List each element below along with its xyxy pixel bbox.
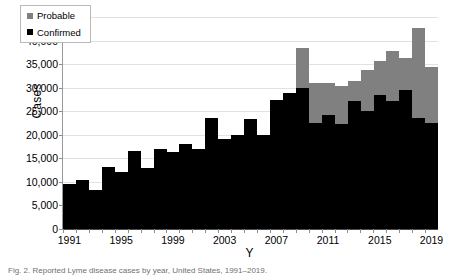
x-tick-mark — [89, 229, 90, 233]
bar-column — [63, 17, 76, 229]
legend-label-probable: Probable — [37, 11, 75, 21]
legend-item-probable: Probable — [27, 11, 81, 21]
y-tick-label: 20,000 — [26, 129, 58, 141]
bar-segment-confirmed — [425, 123, 438, 229]
x-tick-mark — [347, 229, 348, 233]
bar-column — [128, 17, 141, 229]
x-tick-mark — [399, 229, 400, 233]
bar-column — [154, 17, 167, 229]
x-tick-mark — [166, 229, 167, 233]
y-tick-label: 25,000 — [26, 105, 58, 117]
bar-column — [231, 17, 244, 229]
plot-area: 45,00040,00035,00030,00025,00020,00015,0… — [62, 17, 438, 230]
x-tick-label: 2003 — [213, 234, 236, 246]
bar-segment-confirmed — [244, 119, 257, 229]
bar-segment-confirmed — [154, 149, 167, 229]
x-tick-mark — [192, 229, 193, 233]
bar-column — [179, 17, 192, 229]
bar-segment-probable — [399, 58, 412, 90]
bar-segment-confirmed — [335, 124, 348, 229]
bar-segment-confirmed — [231, 135, 244, 229]
x-tick-mark — [141, 229, 142, 233]
x-tick-mark — [373, 229, 374, 233]
bar-column — [309, 17, 322, 229]
y-tick-label: 35,000 — [26, 58, 58, 70]
bar-series-group — [63, 17, 438, 229]
x-tick-mark — [231, 229, 232, 233]
y-tick-label: 5,000 — [32, 199, 58, 211]
bar-segment-probable — [361, 70, 374, 111]
bar-segment-probable — [322, 83, 335, 114]
bar-column — [244, 17, 257, 229]
x-tick-mark — [179, 229, 180, 233]
legend-swatch-probable-icon — [27, 13, 33, 19]
x-tick-mark — [244, 229, 245, 233]
bar-segment-confirmed — [179, 144, 192, 229]
bar-column — [399, 17, 412, 229]
x-tick-mark — [102, 229, 103, 233]
legend-swatch-confirmed-icon — [27, 29, 33, 35]
bar-column — [102, 17, 115, 229]
x-tick-mark — [335, 229, 336, 233]
x-tick-mark — [128, 229, 129, 233]
x-tick-mark — [76, 229, 77, 233]
x-tick-mark — [296, 229, 297, 233]
bar-column — [115, 17, 128, 229]
x-tick-mark — [386, 229, 387, 233]
lyme-disease-cases-figure: Cases 45,00040,00035,00030,00025,00020,0… — [0, 0, 456, 275]
bar-column — [361, 17, 374, 229]
bar-column — [205, 17, 218, 229]
x-tick-label: 1991 — [58, 234, 81, 246]
bar-column — [283, 17, 296, 229]
bar-segment-confirmed — [283, 93, 296, 229]
bar-segment-confirmed — [361, 111, 374, 229]
bar-segment-confirmed — [89, 190, 102, 229]
bar-column — [76, 17, 89, 229]
x-tick-mark — [154, 229, 155, 233]
bar-segment-confirmed — [63, 184, 76, 229]
bar-segment-confirmed — [296, 88, 309, 229]
bar-column — [335, 17, 348, 229]
x-tick-mark — [257, 229, 258, 233]
bar-segment-confirmed — [399, 90, 412, 229]
bar-column — [167, 17, 180, 229]
bar-segment-confirmed — [76, 180, 89, 229]
x-tick-mark — [270, 229, 271, 233]
bar-segment-confirmed — [218, 139, 231, 229]
x-tick-label: 2011 — [317, 234, 340, 246]
bar-segment-probable — [348, 81, 361, 101]
x-tick-label: 1999 — [161, 234, 184, 246]
bar-segment-probable — [425, 67, 438, 122]
x-tick-label: 2007 — [265, 234, 288, 246]
bar-column — [192, 17, 205, 229]
bar-segment-confirmed — [412, 118, 425, 229]
bar-segment-confirmed — [115, 172, 128, 229]
x-tick-mark — [115, 229, 116, 233]
bar-column — [322, 17, 335, 229]
y-tick-label: 30,000 — [26, 82, 58, 94]
bar-column — [425, 17, 438, 229]
x-tick-mark — [360, 229, 361, 233]
x-tick-mark — [218, 229, 219, 233]
bar-column — [89, 17, 102, 229]
bar-segment-probable — [296, 48, 309, 89]
y-axis-title: Cases — [30, 66, 44, 136]
bar-segment-confirmed — [205, 118, 218, 229]
bar-column — [141, 17, 154, 229]
bar-segment-probable — [374, 61, 387, 95]
x-tick-mark — [205, 229, 206, 233]
bar-segment-confirmed — [322, 115, 335, 229]
bar-segment-probable — [386, 51, 399, 100]
bar-segment-confirmed — [257, 135, 270, 229]
bar-segment-probable — [335, 86, 348, 124]
x-tick-mark — [322, 229, 323, 233]
bar-column — [348, 17, 361, 229]
legend-label-confirmed: Confirmed — [37, 28, 81, 38]
bar-column — [257, 17, 270, 229]
y-tick-label: 15,000 — [26, 152, 58, 164]
bar-column — [386, 17, 399, 229]
x-tick-mark — [412, 229, 413, 233]
bar-segment-confirmed — [309, 123, 322, 229]
bar-segment-confirmed — [102, 167, 115, 229]
bar-segment-confirmed — [128, 151, 141, 229]
